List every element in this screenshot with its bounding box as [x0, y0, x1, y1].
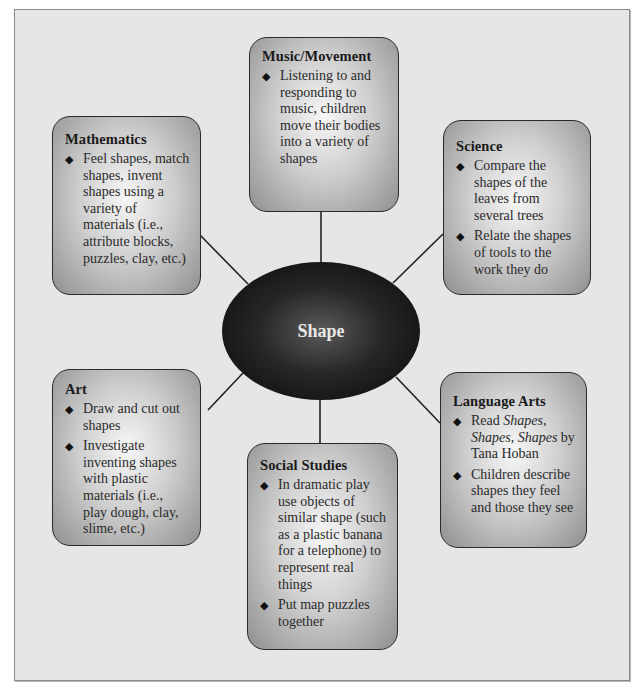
connector-art	[208, 373, 243, 410]
node-mathematics: Mathematics ◆Feel shapes, match shapes, …	[52, 116, 201, 295]
central-node-shape: Shape	[222, 262, 420, 400]
node-title: Mathematics	[65, 131, 190, 148]
diamond-bullet-icon: ◆	[260, 477, 268, 494]
node-social-studies: Social Studies ◆In dramatic play use obj…	[247, 443, 398, 650]
list-item: ◆Read Shapes, Shapes, Shapes by Tana Hob…	[453, 413, 576, 463]
diamond-bullet-icon: ◆	[453, 413, 461, 430]
connector-mathematics	[200, 235, 248, 284]
list-item: ◆Draw and cut out shapes	[65, 401, 190, 434]
diamond-bullet-icon: ◆	[260, 597, 268, 614]
list-item: ◆Children describe shapes they feel and …	[453, 467, 576, 517]
diamond-bullet-icon: ◆	[65, 151, 73, 168]
connector-science	[393, 234, 443, 283]
node-music-movement: Music/Movement ◆Listening to and respond…	[249, 37, 399, 212]
connector-language-arts	[396, 377, 440, 423]
diamond-bullet-icon: ◆	[65, 438, 73, 455]
node-art: Art ◆Draw and cut out shapes ◆Investigat…	[52, 369, 201, 546]
list-item: ◆Put map puzzles together	[260, 597, 387, 630]
list-item: ◆Feel shapes, match shapes, invent shape…	[65, 151, 190, 267]
diamond-bullet-icon: ◆	[262, 68, 270, 85]
list-item: ◆In dramatic play use objects of similar…	[260, 477, 387, 593]
diamond-bullet-icon: ◆	[456, 228, 464, 245]
central-node-label: Shape	[297, 321, 344, 342]
node-title: Science	[456, 138, 580, 155]
list-item: ◆Relate the shapes of tools to the work …	[456, 228, 580, 278]
node-science: Science ◆Compare the shapes of the leave…	[443, 120, 591, 295]
node-title: Music/Movement	[262, 48, 388, 65]
node-title: Social Studies	[260, 457, 387, 474]
node-title: Art	[65, 381, 190, 398]
diamond-bullet-icon: ◆	[65, 401, 73, 418]
diamond-bullet-icon: ◆	[456, 158, 464, 175]
list-item: ◆Investigate inventing shapes with plast…	[65, 438, 190, 538]
list-item: ◆Listening to and responding to music, c…	[262, 68, 388, 168]
node-title: Language Arts	[453, 393, 576, 410]
diamond-bullet-icon: ◆	[453, 467, 461, 484]
node-language-arts: Language Arts ◆Read Shapes, Shapes, Shap…	[440, 372, 587, 548]
list-item: ◆Compare the shapes of the leaves from s…	[456, 158, 580, 224]
